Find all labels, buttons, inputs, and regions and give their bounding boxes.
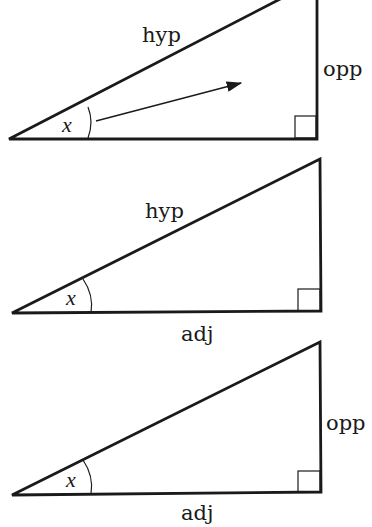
opp-label: opp — [326, 411, 366, 435]
adj-label: adj — [181, 322, 213, 346]
diagram-canvas: x hyp opp x hyp adj x opp adj — [0, 0, 372, 527]
opp-label: opp — [323, 57, 363, 81]
angle-arc-icon — [83, 460, 92, 494]
triangle-bottom-outline — [12, 342, 321, 495]
right-angle-marker-icon — [298, 471, 320, 492]
hyp-label: hyp — [145, 199, 184, 223]
triangle-top: x hyp opp — [9, 0, 363, 139]
angle-label: x — [61, 112, 72, 137]
right-angle-marker-icon — [295, 116, 316, 138]
adj-label: adj — [181, 501, 213, 525]
triangle-middle: x hyp adj — [12, 159, 321, 346]
hyp-label: hyp — [142, 23, 181, 47]
angle-arc-icon — [88, 107, 91, 138]
arrow-icon — [96, 83, 241, 121]
angle-arc-icon — [83, 279, 92, 313]
triangle-top-outline — [9, 0, 317, 139]
triangle-middle-outline — [12, 159, 321, 313]
angle-label: x — [65, 285, 76, 310]
triangles-svg: x hyp opp x hyp adj x opp adj — [0, 0, 372, 527]
angle-label: x — [65, 467, 76, 492]
right-angle-marker-icon — [298, 289, 320, 311]
triangle-bottom: x opp adj — [12, 342, 366, 525]
